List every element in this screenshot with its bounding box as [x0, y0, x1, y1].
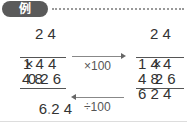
left-calculation: 2 4 × 0.2 6 1 4 4 4 8 6.2 4	[8, 26, 68, 101]
right-product: 6 2 4	[136, 86, 186, 101]
header: 例	[0, 0, 187, 18]
divide-arrow-line	[76, 97, 124, 98]
right-arrow-icon	[121, 53, 126, 59]
right-multiplicand: 2 4	[136, 26, 186, 41]
multiply-arrow-line	[72, 56, 122, 57]
left-multiplicand: 2 4	[8, 26, 68, 41]
right-multiplier-row: × 2 6	[136, 41, 186, 56]
left-partial-2: 4 8	[8, 71, 68, 86]
left-arrow-icon	[71, 94, 76, 100]
dotted-divider	[52, 8, 184, 10]
right-partial-1: 1 4 4	[136, 56, 186, 71]
example-badge: 例	[2, 1, 48, 17]
right-partial-2: 4 8	[136, 71, 186, 86]
multiply-by-100-label: ×100	[84, 59, 111, 73]
bottom-divider	[0, 121, 187, 122]
divide-by-100-label: ÷100	[84, 100, 111, 114]
left-product-row: 6.2 4	[8, 86, 68, 101]
left-product-int: 6	[39, 100, 47, 117]
left-multiplier-row: × 0.2 6	[8, 41, 68, 56]
left-product-frac: 2 4	[51, 100, 72, 117]
left-partial-1: 1 4 4	[8, 56, 68, 71]
right-calculation: 2 4 × 2 6 1 4 4 4 8 6 2 4	[136, 26, 186, 101]
